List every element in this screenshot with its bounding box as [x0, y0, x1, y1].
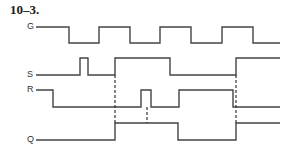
timing-diagram [0, 0, 286, 155]
waveform-r [36, 90, 280, 107]
waveform-g [36, 27, 280, 43]
dashed-markers [115, 75, 236, 123]
waveform-q [36, 123, 280, 140]
waveform-s [36, 58, 280, 75]
